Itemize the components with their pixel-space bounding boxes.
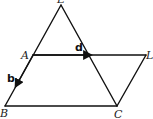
point-label-a: A — [20, 49, 29, 62]
vector-label-b: b — [7, 72, 15, 85]
point-label-top: E — [56, 0, 65, 6]
point-label-c: C — [114, 108, 123, 119]
vector-label-d: d — [75, 41, 83, 54]
point-label-b: B — [0, 107, 8, 119]
point-label-l: L — [145, 49, 153, 62]
geometry-diagram: E A L B C d b — [0, 0, 153, 119]
segment-l-c — [117, 55, 146, 106]
